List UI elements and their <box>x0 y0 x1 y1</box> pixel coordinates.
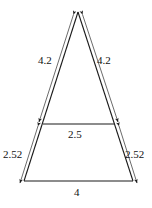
label-base: 4 <box>74 187 80 198</box>
label-right-lower-leg: 2.52 <box>125 149 144 160</box>
label-right-leg: 4.2 <box>97 55 111 66</box>
geometry-figure: 4.2 4.2 2.5 2.52 2.52 4 <box>0 0 152 208</box>
triangle-diagram-svg <box>0 0 152 208</box>
dimension-line-left-leg <box>39 15 74 123</box>
label-midsegment: 2.5 <box>68 129 82 140</box>
label-left-lower-leg: 2.52 <box>3 149 22 160</box>
triangle-left-side <box>24 12 78 181</box>
dimension-line-right-leg <box>83 15 119 123</box>
triangle-outline <box>24 12 133 181</box>
label-left-leg: 4.2 <box>38 55 52 66</box>
dimension-line-left-lower-leg <box>20 126 38 183</box>
